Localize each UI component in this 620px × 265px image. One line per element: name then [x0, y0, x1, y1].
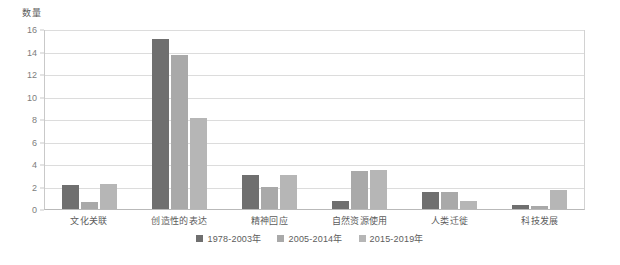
y-axis-ticks: 0246810121416: [0, 30, 44, 210]
y-axis-tick-label: 16: [27, 25, 37, 35]
bar: [171, 55, 188, 209]
y-axis-tick-label: 12: [27, 70, 37, 80]
legend-swatch-icon: [196, 235, 203, 242]
legend-swatch-icon: [359, 235, 366, 242]
plot-area: [44, 30, 585, 210]
bar: [512, 205, 529, 210]
x-axis-tick-label: 文化关联: [44, 214, 134, 227]
bar: [261, 187, 278, 210]
legend-label: 2015-2019年: [370, 232, 424, 245]
bar: [351, 171, 368, 209]
x-axis-labels: 文化关联创造性的表达精神回应自然资源使用人类迁徙科技发展: [44, 214, 585, 227]
x-axis-tick-label: 精神回应: [224, 214, 314, 227]
x-axis-tick-label: 科技发展: [495, 214, 585, 227]
bar-group: [314, 30, 404, 209]
legend-item[interactable]: 2005-2014年: [277, 232, 342, 245]
bar: [81, 202, 98, 209]
gridline: [45, 210, 584, 211]
bar: [422, 192, 439, 209]
bar: [332, 201, 349, 209]
bar: [531, 206, 548, 209]
x-axis-tick-label: 人类迁徙: [405, 214, 495, 227]
bar: [370, 170, 387, 209]
bar: [190, 118, 207, 209]
bar: [152, 39, 169, 209]
bar: [62, 185, 79, 209]
bar: [242, 175, 259, 209]
chart-legend: 1978-2003年2005-2014年2015-2019年: [0, 232, 620, 245]
bar: [280, 175, 297, 209]
legend-label: 2005-2014年: [288, 232, 342, 245]
y-axis-tick-label: 6: [32, 138, 37, 148]
bar-group: [225, 30, 315, 209]
y-axis-tick-label: 0: [32, 205, 37, 215]
y-axis-tick-label: 10: [27, 93, 37, 103]
bar-group: [494, 30, 584, 209]
bar: [100, 184, 117, 209]
y-axis-tick-label: 4: [32, 160, 37, 170]
x-axis-tick-label: 自然资源使用: [315, 214, 405, 227]
bar: [460, 201, 477, 209]
bar-group: [404, 30, 494, 209]
bar: [550, 190, 567, 209]
legend-swatch-icon: [277, 235, 284, 242]
y-axis-title: 数量: [22, 6, 41, 19]
legend-label: 1978-2003年: [207, 232, 261, 245]
legend-item[interactable]: 1978-2003年: [196, 232, 261, 245]
bar-group: [45, 30, 135, 209]
legend-item[interactable]: 2015-2019年: [359, 232, 424, 245]
bar-group: [135, 30, 225, 209]
bar: [441, 192, 458, 209]
bar-chart: 数量 0246810121416 文化关联创造性的表达精神回应自然资源使用人类迁…: [0, 0, 620, 265]
y-axis-tick-label: 2: [32, 183, 37, 193]
bar-groups: [45, 30, 584, 209]
x-axis-tick-label: 创造性的表达: [134, 214, 224, 227]
y-axis-tick-label: 14: [27, 48, 37, 58]
y-axis-tick-label: 8: [32, 115, 37, 125]
